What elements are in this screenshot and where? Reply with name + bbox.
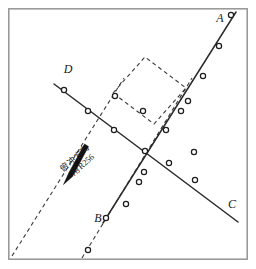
data-point <box>142 148 147 153</box>
data-point <box>166 160 171 165</box>
label-c: C <box>228 197 237 211</box>
label-b: B <box>94 211 102 225</box>
figure-root: 俯冲方向 用R256 A B C D <box>0 0 256 269</box>
label-a: A <box>215 11 224 25</box>
label-d: D <box>63 62 73 76</box>
data-point <box>228 12 233 17</box>
data-point <box>136 179 141 184</box>
data-point <box>85 108 90 113</box>
data-point <box>178 108 183 113</box>
data-point <box>61 87 66 92</box>
data-point <box>85 247 90 252</box>
data-point <box>200 73 205 78</box>
data-point <box>112 93 117 98</box>
data-point <box>123 201 128 206</box>
data-point <box>192 177 197 182</box>
scatter-figure: 俯冲方向 用R256 A B C D <box>0 0 256 269</box>
data-point <box>216 43 221 48</box>
data-point <box>191 149 196 154</box>
data-point <box>163 127 168 132</box>
data-point <box>140 108 145 113</box>
data-point <box>185 98 190 103</box>
data-point <box>141 169 146 174</box>
figure-frame <box>9 9 247 259</box>
data-point <box>103 215 108 220</box>
data-point <box>111 127 116 132</box>
